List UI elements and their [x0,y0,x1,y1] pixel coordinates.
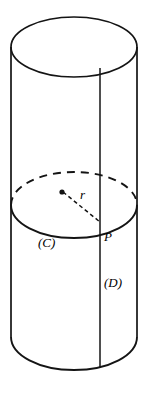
mid-circle-hidden-arc [11,172,137,205]
top-circle-outline [11,17,137,77]
cylinder-figure: r (C) P (D) [0,0,148,394]
mid-circle-visible-arc [11,205,137,238]
cylinder-diagram-svg [0,0,148,394]
circle-c-label: (C) [38,236,55,249]
point-p-label: P [104,230,112,243]
center-point-dot [59,189,64,194]
bottom-base-arc [11,337,137,370]
disk-d-label: (D) [104,276,122,289]
radius-label: r [80,188,85,201]
